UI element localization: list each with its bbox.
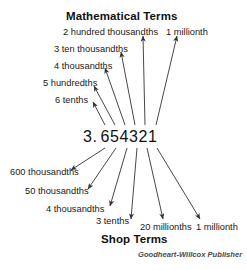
number-decimal-digits: 654321 [101, 128, 158, 145]
arrow-to-hundredths [94, 86, 115, 125]
arrow-to-ten-thousandths [121, 52, 135, 125]
math-label-hundred-thousandths: 2 hundred thousandths [63, 27, 158, 38]
arrow-to-tenths [93, 102, 105, 125]
place-value-diagram: Mathematical Terms 2 hundred thousandths… [0, 0, 247, 270]
shop-label-3-tenths: 3 tenths [96, 216, 129, 227]
arrow-to-1-millionth [157, 148, 200, 219]
shop-label-20-millionths: 20 millionths [140, 222, 192, 233]
shop-terms-title: Shop Terms [101, 233, 168, 245]
shop-label-4-thousandths: 4 thousandths [46, 204, 104, 215]
math-label-hundredths: 5 hundredths [43, 78, 97, 89]
math-label-millionth: 1 millionth [166, 27, 208, 38]
math-label-thousandths: 4 thousandths [54, 61, 112, 72]
arrow-to-millionths [156, 36, 177, 125]
math-label-ten-thousandths: 3 ten thousandths [54, 44, 128, 55]
mathematical-terms-title: Mathematical Terms [66, 10, 178, 22]
shop-label-1-millionth: 1 millionth [196, 222, 238, 233]
math-label-tenths: 6 tenths [55, 95, 88, 106]
publisher-credit: Goodheart-Willcox Publisher [138, 250, 242, 259]
arrow-to-thousandths [105, 68, 125, 125]
decimal-number: 3.654321 [83, 128, 158, 146]
arrow-to-4-thousandths [110, 148, 127, 206]
arrow-to-hundred-thousandths [143, 36, 145, 125]
arrow-to-20-millionths [147, 148, 163, 219]
arrow-to-50-thousandths [88, 148, 116, 189]
arrow-to-3-tenths [131, 148, 137, 219]
shop-label-50-thousandths: 50 thousandths [25, 186, 89, 197]
number-integer-part: 3. [83, 128, 98, 145]
shop-label-600-thousandths: 600 thousandths [10, 167, 79, 178]
